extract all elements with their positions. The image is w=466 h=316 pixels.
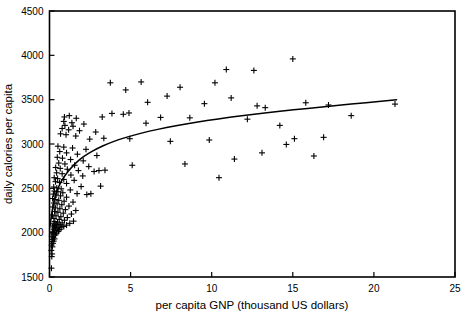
data-point [56, 160, 62, 166]
data-point [81, 121, 87, 127]
data-point [109, 110, 115, 116]
data-point [228, 95, 234, 101]
data-point [321, 134, 327, 140]
data-point [70, 199, 76, 205]
data-point [74, 151, 80, 157]
data-point [212, 80, 218, 86]
y-tick-label-4500: 4500 [21, 6, 44, 17]
data-point [77, 128, 83, 134]
data-point [99, 114, 105, 120]
y-axis-title: daily calories per capita [2, 83, 14, 204]
data-point [143, 120, 149, 126]
data-point [73, 208, 79, 214]
data-point [59, 125, 65, 131]
y-tick-label-2500: 2500 [21, 183, 44, 194]
data-point-markers [48, 56, 398, 271]
scatter-plot-figure: 0510152025 1500200025003000350040004500 … [0, 0, 466, 316]
data-point [68, 211, 74, 217]
data-point [61, 114, 67, 120]
data-point [244, 116, 250, 122]
data-point [64, 215, 70, 221]
data-point [94, 153, 100, 159]
x-tick-label-0: 0 [47, 283, 53, 294]
data-point [101, 135, 107, 141]
data-point [98, 183, 104, 189]
data-point [223, 67, 229, 73]
data-point [88, 191, 94, 197]
x-tick-label-25: 25 [449, 283, 461, 294]
plot-frame [50, 11, 456, 277]
y-tick-label-3500: 3500 [21, 94, 44, 105]
data-point [83, 146, 89, 152]
plot-border [50, 11, 456, 277]
data-point [80, 173, 86, 179]
x-tick-label-10: 10 [206, 283, 218, 294]
x-axis-title: per capita GNP (thousand US dollars) [156, 299, 349, 311]
data-point [126, 110, 132, 116]
data-point [216, 175, 222, 181]
data-point [62, 161, 68, 167]
data-point [283, 141, 289, 147]
data-point [58, 131, 64, 137]
data-point [206, 137, 212, 143]
data-point [64, 150, 70, 156]
x-tick-label-20: 20 [368, 283, 380, 294]
data-point [86, 164, 92, 170]
data-point [74, 191, 80, 197]
x-tick-label-5: 5 [128, 283, 134, 294]
data-point [93, 129, 99, 135]
data-point [259, 150, 265, 156]
data-point [87, 136, 93, 142]
data-point [61, 118, 67, 124]
data-point [51, 184, 57, 190]
data-point [68, 157, 74, 163]
plot-canvas: 0510152025 1500200025003000350040004500 … [0, 0, 466, 316]
data-point [64, 180, 70, 186]
data-point [70, 145, 76, 151]
data-point [107, 80, 113, 86]
data-point [78, 184, 84, 190]
data-point [71, 177, 77, 183]
data-point [70, 123, 76, 129]
y-tick-label-3000: 3000 [21, 139, 44, 150]
x-axis-tick-labels: 0510152025 [47, 283, 461, 294]
data-point [303, 100, 309, 106]
data-point [120, 111, 126, 117]
x-tick-label-15: 15 [287, 283, 299, 294]
data-point [201, 101, 207, 107]
data-point [291, 136, 297, 142]
data-point [251, 67, 257, 73]
data-point [84, 192, 90, 198]
data-point [91, 168, 97, 174]
data-point [182, 161, 188, 167]
data-point [73, 115, 79, 121]
data-point [102, 167, 108, 173]
data-point [164, 93, 170, 99]
data-point [68, 172, 74, 178]
data-point [129, 162, 135, 168]
data-point [231, 156, 237, 162]
data-point [59, 155, 65, 161]
data-point [53, 164, 59, 170]
y-tick-label-4000: 4000 [21, 50, 44, 61]
data-point [187, 115, 193, 121]
data-point [57, 165, 63, 171]
data-point [392, 101, 398, 107]
data-point [54, 154, 60, 160]
data-point [67, 187, 73, 193]
data-point [158, 114, 164, 120]
data-point [311, 153, 317, 159]
y-tick-label-1500: 1500 [21, 272, 44, 283]
data-point [167, 138, 173, 144]
data-point [290, 56, 296, 62]
data-point [145, 99, 151, 105]
data-point [62, 122, 68, 128]
data-point [123, 87, 129, 93]
data-point [75, 168, 81, 174]
data-point [262, 105, 268, 111]
y-axis-tick-labels: 1500200025003000350040004500 [21, 6, 44, 283]
data-point [66, 203, 72, 209]
data-point [66, 113, 72, 119]
data-point [177, 84, 183, 90]
y-tick-label-2000: 2000 [21, 227, 44, 238]
